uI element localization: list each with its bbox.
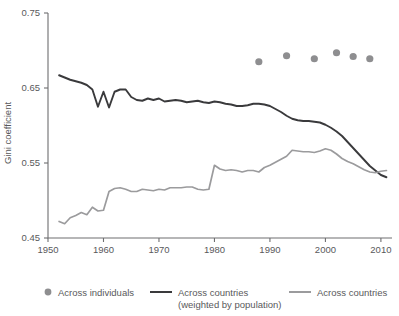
chart-legend: Across individuals Across countries (wei… [45, 287, 388, 310]
scatter-point [366, 55, 373, 62]
series-layer [59, 75, 386, 224]
chart-canvas: 0.450.550.650.75 19501960197019801990200… [0, 0, 399, 316]
x-tick-label: 1950 [37, 244, 58, 255]
x-tick-label: 2000 [315, 244, 336, 255]
x-axis-tick-labels: 1950196019701980199020002010 [37, 244, 391, 255]
scatter-point [283, 52, 290, 59]
series-line-weighted [59, 75, 386, 177]
y-axis-tick-labels: 0.450.550.650.75 [22, 7, 41, 243]
x-tick-label: 1980 [204, 244, 225, 255]
y-tick-label: 0.65 [22, 82, 41, 93]
x-tick-label: 2010 [370, 244, 391, 255]
legend-label-countries: Across countries [317, 287, 387, 298]
legend-label-individuals: Across individuals [58, 287, 134, 298]
x-tick-label: 1970 [148, 244, 169, 255]
gini-coefficient-chart: 0.450.550.650.75 19501960197019801990200… [0, 0, 399, 316]
y-axis-title: Gini coefficient [2, 102, 13, 164]
y-tick-label: 0.75 [22, 7, 41, 18]
axis-spine [48, 13, 392, 238]
x-tick-label: 1990 [259, 244, 280, 255]
axis-lines [44, 13, 392, 242]
y-tick-label: 0.45 [22, 232, 41, 243]
scatter-point [255, 58, 262, 65]
y-tick-label: 0.55 [22, 157, 41, 168]
legend-dot-icon [45, 289, 52, 296]
x-tick-label: 1960 [93, 244, 114, 255]
scatter-points-layer [255, 49, 373, 65]
scatter-point [350, 53, 357, 60]
legend-label-weighted: Across countries [178, 287, 248, 298]
scatter-point [333, 49, 340, 56]
series-line-countries [59, 149, 386, 224]
scatter-point [311, 55, 318, 62]
legend-label-weighted-line2: (weighted by population) [178, 299, 282, 310]
